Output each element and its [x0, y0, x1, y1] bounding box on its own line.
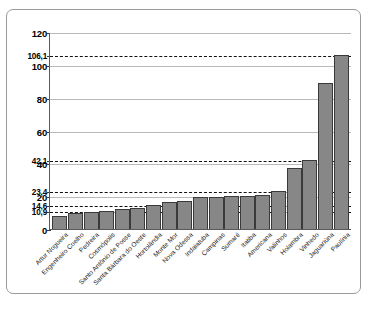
y-tick-label-80: 80	[37, 93, 47, 104]
bar	[271, 191, 286, 229]
bar	[99, 211, 114, 229]
bar	[334, 55, 349, 229]
y-ref-label-14-6: 14,6	[32, 202, 47, 211]
bar	[209, 197, 224, 229]
bar-series	[50, 33, 351, 229]
y-ref-label-106-1: 106,1	[28, 51, 48, 60]
bar	[224, 196, 239, 229]
bar	[193, 197, 208, 229]
bar	[68, 213, 83, 229]
bar	[146, 205, 161, 229]
bar	[162, 202, 177, 229]
y-tick-label-60: 60	[37, 126, 47, 137]
plot-area	[49, 33, 351, 230]
y-ref-label-23-4: 23,4	[32, 187, 47, 196]
chart-frame: 02040608010012010,914,623,442,1106,1 Art…	[6, 9, 361, 294]
y-tick-label-120: 120	[32, 28, 47, 39]
bar	[177, 201, 192, 229]
x-axis-labels: Artur NogueiraEngenheiro CoelhoPedreiraC…	[49, 231, 351, 293]
bar	[302, 160, 317, 229]
bar	[130, 208, 145, 229]
y-axis: 02040608010012010,914,623,442,1106,1	[7, 33, 47, 230]
bar	[52, 216, 67, 229]
bar	[318, 83, 333, 229]
figure-caption	[10, 302, 367, 316]
bar	[255, 195, 270, 229]
bar	[115, 209, 130, 229]
y-ref-label-42-1: 42,1	[32, 156, 47, 165]
y-tick-label-100: 100	[32, 60, 47, 71]
bar	[287, 168, 302, 229]
bar	[84, 212, 99, 229]
bar	[240, 196, 255, 229]
